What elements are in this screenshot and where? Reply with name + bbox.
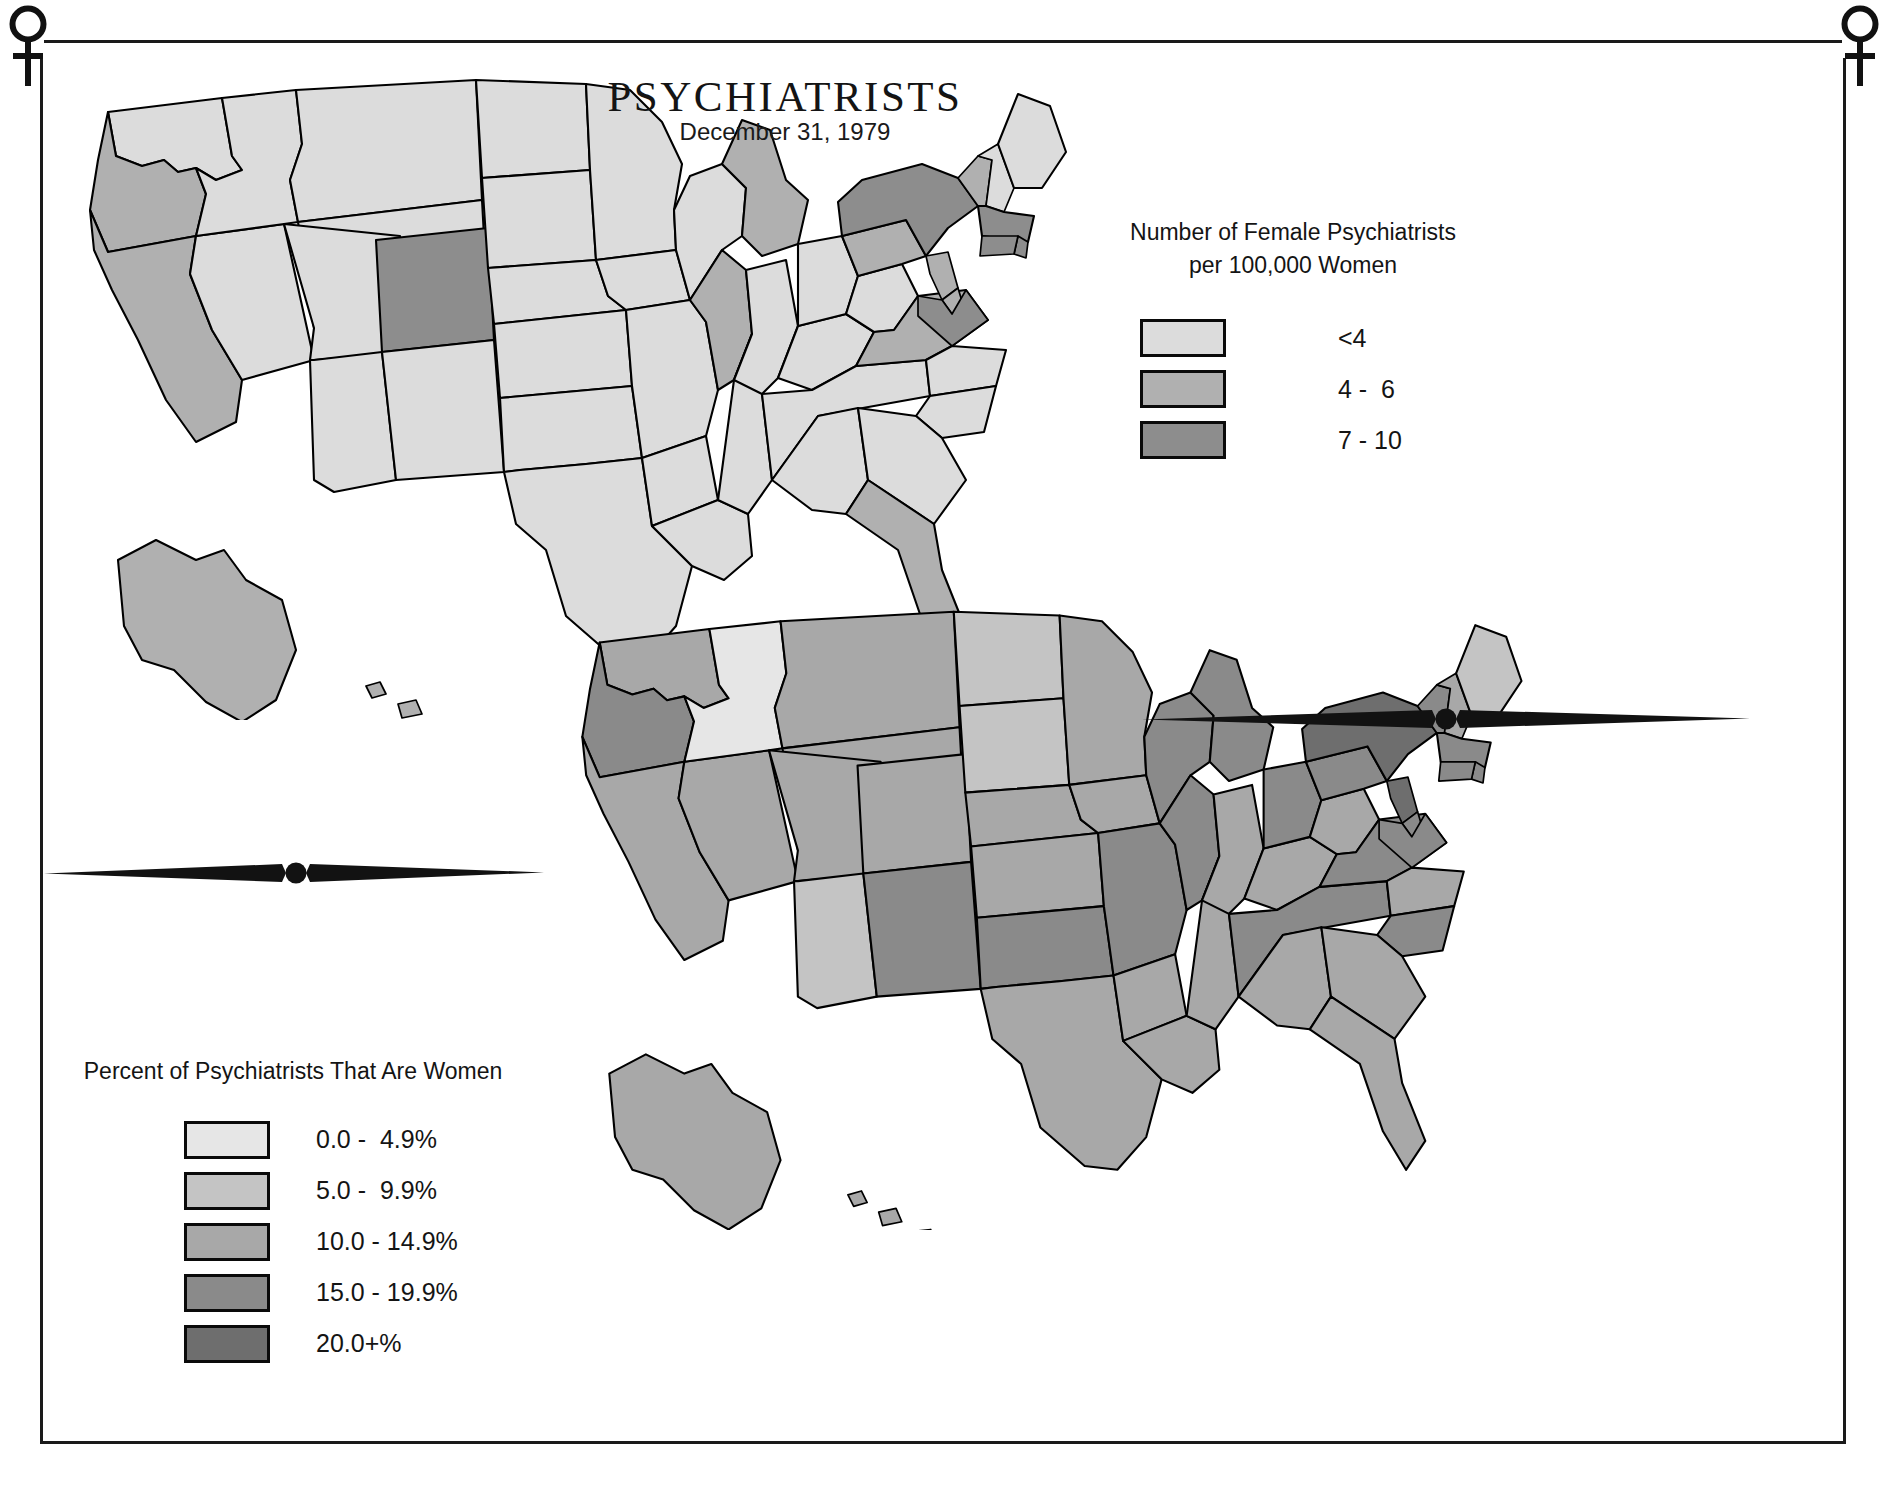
state-sd (482, 170, 596, 268)
state-ks (971, 833, 1104, 918)
legend-bottom-item-label: 10.0 - 14.9% (316, 1227, 458, 1256)
state-nm (863, 862, 980, 997)
state-co (858, 754, 972, 873)
spear-divider-ornament-left (44, 856, 544, 890)
legend-bottom-item-swatch (184, 1274, 270, 1312)
page-subtitle: December 31, 1979 (0, 118, 1570, 146)
legend-percent-women: Percent of Psychiatrists That Are Women … (78, 1055, 508, 1369)
legend-bottom-item-row: 15.0 - 19.9% (184, 1267, 508, 1318)
legend-bottom-item-label: 15.0 - 19.9% (316, 1278, 458, 1307)
legend-top-item-row: <4 (1140, 313, 1508, 364)
state-ok (977, 906, 1114, 989)
legend-top-item-swatch (1140, 319, 1226, 357)
legend-top-item-label: 7 - 10 (1338, 426, 1402, 455)
legend-top-item-label: <4 (1338, 324, 1367, 353)
state-fl (1310, 997, 1425, 1170)
state-hi (366, 682, 458, 720)
state-mo (626, 300, 718, 458)
page-title: PSYCHIATRISTS (0, 72, 1570, 121)
state-nd (954, 612, 1064, 706)
legend-bottom-item-row: 0.0 - 4.9% (184, 1114, 508, 1165)
legend-bottom-item-label: 5.0 - 9.9% (316, 1176, 437, 1205)
legend-bottom-item-swatch (184, 1172, 270, 1210)
state-ak (609, 1054, 780, 1229)
state-nm (382, 340, 504, 480)
legend-top-title: Number of Female Psychiatrists per 100,0… (1078, 216, 1508, 283)
legend-top-item-swatch (1140, 421, 1226, 459)
state-sd (960, 698, 1070, 792)
legend-top-item-label: 4 - 6 (1338, 375, 1395, 404)
state-ks (494, 310, 632, 398)
legend-bottom-item-swatch (184, 1325, 270, 1363)
legend-bottom-title-line1: Percent of Psychiatrists That Are Women (84, 1058, 502, 1084)
map-lower-svg (540, 590, 1560, 1230)
spear-divider-ornament-right (1142, 702, 1750, 736)
legend-top-rows: <44 - 67 - 10 (1140, 313, 1508, 466)
state-ct (1439, 762, 1476, 781)
legend-top-item-swatch (1140, 370, 1226, 408)
state-mo (1098, 823, 1187, 975)
legend-bottom-item-row: 5.0 - 9.9% (184, 1165, 508, 1216)
legend-bottom-item-label: 20.0+% (316, 1329, 402, 1358)
legend-bottom-item-label: 0.0 - 4.9% (316, 1125, 437, 1154)
state-mn (1060, 616, 1152, 785)
legend-bottom-item-swatch (184, 1223, 270, 1261)
state-mt (775, 612, 960, 749)
legend-top-title-line2: per 100,000 Women (1078, 249, 1508, 282)
legend-female-psychiatrists-rate: Number of Female Psychiatrists per 100,0… (1078, 216, 1508, 466)
legend-bottom-item-row: 10.0 - 14.9% (184, 1216, 508, 1267)
legend-bottom-item-row: 20.0+% (184, 1318, 508, 1369)
legend-top-item-row: 7 - 10 (1140, 415, 1508, 466)
state-ak (118, 540, 296, 720)
state-az (794, 873, 877, 1008)
state-hi (848, 1191, 937, 1230)
state-az (310, 352, 396, 492)
venus-symbol-icon-top-right (1838, 2, 1882, 88)
legend-bottom-title: Percent of Psychiatrists That Are Women (78, 1055, 508, 1088)
state-ct (980, 236, 1018, 256)
legend-bottom-rows: 0.0 - 4.9%5.0 - 9.9%10.0 - 14.9%15.0 - 1… (184, 1114, 508, 1369)
legend-top-title-line1: Number of Female Psychiatrists (1130, 219, 1456, 245)
state-ok (500, 386, 642, 472)
state-co (376, 228, 494, 352)
legend-bottom-item-swatch (184, 1121, 270, 1159)
map-lower-percent-women (540, 590, 1560, 1230)
legend-top-item-row: 4 - 6 (1140, 364, 1508, 415)
